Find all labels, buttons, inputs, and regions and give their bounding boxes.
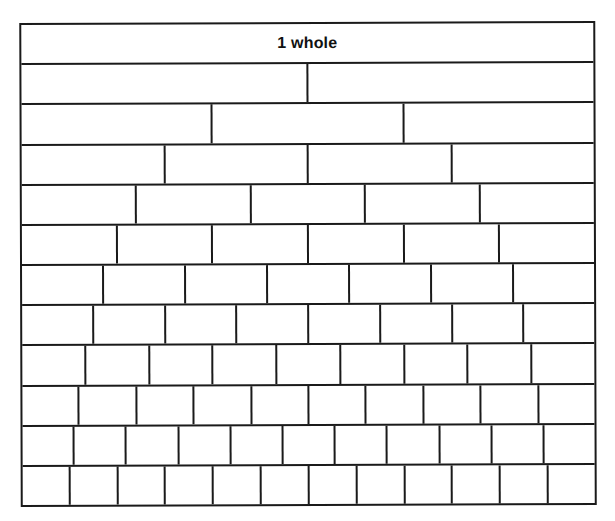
fraction-cell[interactable] [524,304,594,342]
fraction-cell[interactable] [137,386,195,424]
row-fourths [22,144,594,186]
fraction-cell[interactable] [268,265,350,303]
fraction-cell[interactable] [533,344,595,382]
fraction-cell[interactable] [104,265,186,303]
fraction-cell[interactable] [23,467,71,505]
fraction-cell[interactable] [424,385,482,423]
fraction-cell[interactable] [432,264,514,302]
row-tenths [22,385,594,427]
fraction-cell[interactable] [452,144,594,183]
row-fifths [22,184,594,226]
row-1-whole: 1 whole [21,23,593,65]
fraction-cell[interactable] [381,305,453,343]
fraction-cell[interactable] [309,305,381,343]
scan-skew-wrapper: 1 whole [0,0,615,521]
fraction-cell[interactable] [492,425,544,463]
fraction-cell[interactable] [213,225,309,263]
row-thirds [22,103,594,145]
fraction-cell[interactable] [22,105,213,144]
fraction-cell[interactable] [481,184,594,223]
fraction-cell[interactable] [469,345,533,383]
fraction-cell[interactable] [21,64,308,103]
fraction-cell[interactable] [405,224,501,262]
fraction-cell[interactable] [237,305,309,343]
fraction-cell[interactable] [283,426,335,464]
fraction-cell[interactable] [440,425,492,463]
fraction-cell[interactable] [213,104,404,143]
fraction-cell[interactable] [539,385,595,423]
row-sevenths [22,264,594,306]
row-twelfths [23,465,595,505]
fraction-cell[interactable] [127,426,179,464]
fraction-cell[interactable] [544,425,594,463]
row-halves [21,63,593,105]
fraction-cell[interactable] [22,266,104,304]
fraction-cell[interactable] [214,466,262,504]
fraction-cell[interactable] [310,466,358,504]
fraction-cell[interactable] [23,426,75,464]
fraction-cell[interactable] [166,305,238,343]
fraction-cell[interactable]: 1 whole [21,23,593,63]
fraction-cell[interactable] [118,466,166,504]
fraction-cell[interactable] [549,465,595,503]
fraction-cell[interactable] [86,346,150,384]
fraction-cell[interactable] [22,225,118,263]
fraction-cell[interactable] [453,465,501,503]
fraction-cell[interactable] [165,145,309,184]
row-sixths [22,224,594,266]
fraction-cell[interactable] [309,385,367,423]
fraction-cell[interactable] [405,465,453,503]
fraction-cell[interactable] [514,264,594,302]
fraction-cell[interactable] [367,385,425,423]
fraction-cell[interactable] [252,386,310,424]
fraction-cell[interactable] [22,346,86,384]
fraction-cell[interactable] [22,145,166,184]
fraction-cell[interactable] [166,466,214,504]
fraction-cell[interactable] [336,425,388,463]
fraction-cell[interactable] [262,466,310,504]
fraction-cell[interactable] [500,224,594,262]
fraction-cell[interactable] [214,345,278,383]
fraction-cell[interactable] [80,386,138,424]
fraction-cell[interactable] [70,466,118,504]
row-elevenths [23,425,595,467]
fraction-cell[interactable] [22,386,80,424]
fraction-cell[interactable] [308,63,593,102]
fraction-cell[interactable] [341,345,405,383]
fraction-cell[interactable] [309,144,453,183]
fraction-cell[interactable] [404,103,593,142]
fraction-cell[interactable] [309,225,405,263]
row-eighths [22,304,594,346]
row-ninths [22,344,594,386]
fraction-cell[interactable] [186,265,268,303]
fraction-cell[interactable] [357,466,405,504]
fraction-cell[interactable] [405,345,469,383]
fraction-cell[interactable] [482,385,540,423]
fraction-cell[interactable] [251,185,366,224]
fraction-cell[interactable] [94,306,166,344]
fraction-cell[interactable] [195,386,253,424]
fraction-cell[interactable] [277,345,341,383]
fraction-cell[interactable] [118,225,214,263]
fraction-cell[interactable] [453,305,525,343]
fraction-cell[interactable] [22,306,94,344]
fraction-cell[interactable] [22,185,137,224]
fraction-cell[interactable] [388,425,440,463]
fraction-wall: 1 whole [19,21,597,507]
fraction-cell[interactable] [350,265,432,303]
fraction-cell[interactable] [137,185,252,224]
fraction-cell[interactable] [501,465,549,503]
whole-label: 1 whole [277,35,337,51]
fraction-cell[interactable] [75,426,127,464]
fraction-cell[interactable] [366,184,481,223]
fraction-cell[interactable] [231,426,283,464]
fraction-cell[interactable] [150,346,214,384]
fraction-cell[interactable] [179,426,231,464]
